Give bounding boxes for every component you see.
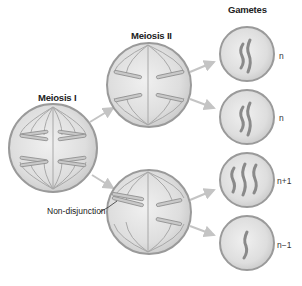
nondisjunction-label: Non-disjunction — [47, 206, 106, 216]
gametes-title: Gametes — [228, 4, 267, 15]
gamete-1 — [220, 27, 274, 81]
gamete-3 — [220, 153, 274, 207]
meiosis-2-cell-top — [107, 43, 191, 127]
meiosis-2-title: Meiosis II — [131, 30, 172, 41]
meiosis-1-title: Meiosis I — [38, 92, 76, 103]
gamete-4-ploidy: n−1 — [277, 240, 291, 250]
gamete-2-ploidy: n — [279, 113, 284, 123]
gamete-4 — [220, 216, 274, 270]
meiosis-2-cell-bottom — [107, 170, 191, 254]
meiosis-1-cell — [9, 104, 97, 192]
arrow-to-gamete-1 — [190, 62, 214, 72]
gamete-3-ploidy: n+1 — [277, 176, 291, 186]
arrow-meiosis1-to-bottom — [92, 175, 113, 188]
gamete-1-ploidy: n — [279, 51, 284, 61]
arrow-meiosis1-to-top — [90, 108, 113, 122]
arrow-to-gamete-2 — [190, 99, 214, 108]
gamete-2 — [220, 90, 274, 144]
meiosis-diagram — [0, 0, 302, 286]
arrow-to-gamete-3 — [190, 190, 214, 200]
arrow-to-gamete-4 — [190, 226, 214, 235]
